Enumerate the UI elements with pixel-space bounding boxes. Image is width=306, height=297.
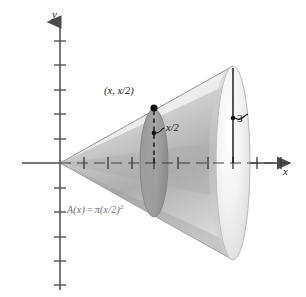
area-formula-exponent: 2 xyxy=(120,203,123,210)
point-marker xyxy=(150,104,157,111)
area-formula-fn: A(x) xyxy=(67,204,85,215)
y-axis-label: y xyxy=(52,9,57,20)
cone-volume-figure: (x, x/2) x/2 3 A(x)=π(x/2)2 y x xyxy=(0,0,306,297)
x-axis-label: x xyxy=(283,166,288,177)
point-coordinate-label: (x, x/2) xyxy=(104,86,134,97)
end-radius-label: 3 xyxy=(237,113,243,124)
area-formula-label: A(x)=π(x/2)2 xyxy=(67,204,123,215)
figure-canvas xyxy=(0,0,306,297)
area-formula-equals: = xyxy=(85,204,95,215)
axis-y xyxy=(54,22,66,290)
end-radius-dot xyxy=(231,116,236,121)
area-formula-body: π(x/2) xyxy=(95,204,120,215)
cross-section-radius-label: x/2 xyxy=(166,123,179,134)
radius-midpoint-dot xyxy=(152,131,157,136)
